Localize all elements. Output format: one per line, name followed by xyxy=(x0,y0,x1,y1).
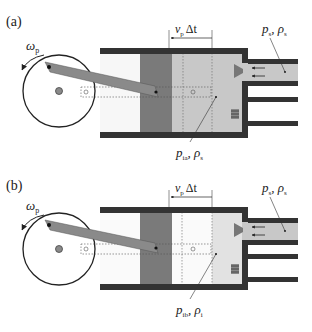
cylinder-wall-bottom xyxy=(100,132,248,138)
chamber-state-label: pia, ρs xyxy=(175,145,203,162)
crank-axle xyxy=(56,246,63,253)
pump-diagram: (a) ωp xyxy=(0,0,312,332)
outlet-valve-spring xyxy=(231,109,239,119)
panel-a: (a) ωp xyxy=(6,14,298,162)
supply-pipe xyxy=(248,63,298,81)
cylinder-end-wall xyxy=(242,48,248,138)
cylinder-wall-bottom xyxy=(100,284,248,290)
cylinder-wall-top xyxy=(100,48,248,54)
panel-label: (a) xyxy=(6,14,22,30)
displacement-label: vpΔt xyxy=(175,22,198,38)
displacement-label: vpΔt xyxy=(175,181,198,197)
panel-label: (b) xyxy=(6,178,23,194)
omega-label: ωp xyxy=(26,198,39,215)
cylinder-wall-top xyxy=(100,207,248,213)
supply-pipe xyxy=(248,222,298,240)
cylinder-end-wall xyxy=(242,207,248,290)
crank-axle xyxy=(56,88,63,95)
chamber-state-label: pib, ρi xyxy=(175,302,203,319)
omega-label: ωp xyxy=(26,38,39,55)
chamber-fluid xyxy=(212,212,245,285)
supply-state-label: ps, ρs xyxy=(261,180,287,197)
panel-b: (b) ωp vpΔt xyxy=(6,178,298,319)
outlet-valve-spring xyxy=(231,264,239,274)
supply-state-label: ps, ρs xyxy=(261,21,287,38)
